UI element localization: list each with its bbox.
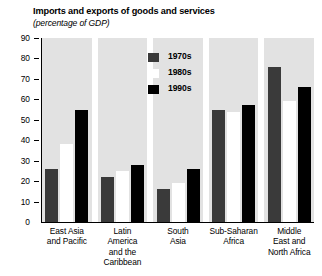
x-axis-category-line: America (92, 236, 154, 246)
bar (212, 110, 225, 222)
legend-label: 1970s (168, 51, 191, 61)
legend-label: 1990s (168, 83, 191, 93)
x-axis-category-line: East and (258, 236, 320, 246)
x-axis-category-line: Caribbean (92, 257, 154, 267)
chart-legend: 1970s1980s1990s (148, 50, 222, 98)
y-tick-mark (34, 140, 39, 141)
x-axis-category-line: and the (92, 247, 154, 257)
y-tick-label: 70 (6, 75, 30, 83)
legend-item: 1990s (148, 82, 222, 98)
x-axis-category-line: and Pacific (36, 236, 98, 246)
legend-label: 1980s (168, 67, 191, 77)
y-tick-mark (34, 181, 39, 182)
y-tick-label: 10 (6, 198, 30, 206)
bar (187, 169, 200, 222)
x-axis-category-line: Africa (203, 236, 265, 246)
legend-swatch (148, 53, 159, 62)
x-axis-category-line: Sub-Saharan (203, 226, 265, 236)
bar (60, 144, 73, 222)
y-tick-mark (34, 120, 39, 121)
chart-figure: Imports and exports of goods and service… (0, 0, 322, 276)
x-axis-category-label: Sub-SaharanAfrica (203, 226, 265, 247)
x-axis-category-line: Asia (147, 236, 209, 246)
bar (101, 177, 114, 222)
bar (298, 87, 311, 222)
y-tick-mark (34, 99, 39, 100)
x-axis-category-label: LatinAmericaand theCaribbean (92, 226, 154, 268)
y-tick-label: 60 (6, 95, 30, 103)
x-axis-category-line: Latin (92, 226, 154, 236)
x-axis-category-label: East Asiaand Pacific (36, 226, 98, 247)
y-axis-line (41, 38, 42, 223)
bar (242, 105, 255, 222)
legend-swatch (148, 85, 159, 94)
y-tick-mark (34, 161, 39, 162)
bar (116, 171, 129, 222)
y-tick-label: 30 (6, 157, 30, 165)
x-axis-category-line: East Asia (36, 226, 98, 236)
legend-item: 1970s (148, 50, 222, 66)
bar (157, 189, 170, 222)
bar (172, 183, 185, 222)
y-tick-mark (34, 58, 39, 59)
x-axis-category-line: Middle (258, 226, 320, 236)
x-axis-category-label: MiddleEast andNorth Africa (258, 226, 320, 257)
y-tick-label: 40 (6, 136, 30, 144)
bar (268, 67, 281, 222)
y-tick-mark (34, 38, 39, 39)
bar (45, 169, 58, 222)
x-axis-category-line: South (147, 226, 209, 236)
y-tick-mark (34, 202, 39, 203)
x-axis-line (41, 222, 314, 223)
legend-item: 1980s (148, 66, 222, 82)
bar (131, 165, 144, 222)
y-tick-label: 20 (6, 177, 30, 185)
y-tick-label: 50 (6, 116, 30, 124)
x-axis-category-line: North Africa (258, 247, 320, 257)
y-tick-mark (34, 79, 39, 80)
y-tick-label: 90 (6, 34, 30, 42)
y-tick-label: 80 (6, 54, 30, 62)
bar (75, 110, 88, 222)
y-tick-label: 0 (6, 218, 30, 226)
chart-subtitle: (percentage of GDP) (33, 18, 109, 28)
legend-swatch (148, 69, 159, 78)
bar (227, 112, 240, 222)
bar (283, 101, 296, 222)
chart-title: Imports and exports of goods and service… (33, 6, 215, 16)
x-axis-category-label: SouthAsia (147, 226, 209, 247)
